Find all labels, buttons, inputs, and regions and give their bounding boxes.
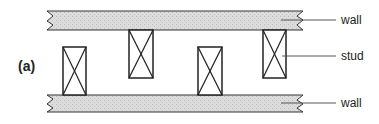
stud-3 — [198, 47, 222, 95]
bottom-wall-label: wall — [340, 96, 362, 110]
bottom-wall — [47, 95, 303, 112]
wall-stud-diagram: wall stud wall (a) — [0, 0, 379, 124]
stud-4 — [263, 30, 286, 78]
stud-2 — [129, 30, 153, 78]
top-wall — [47, 11, 303, 30]
stud-1 — [63, 47, 86, 95]
stud-label: stud — [341, 49, 364, 63]
top-wall-label: wall — [340, 13, 362, 27]
panel-label: (a) — [18, 58, 35, 74]
